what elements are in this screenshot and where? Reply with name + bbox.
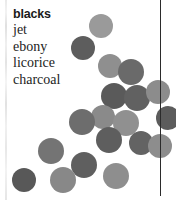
word-list-title: blacks bbox=[13, 6, 103, 22]
scatter-dot bbox=[118, 59, 144, 85]
scatter-dot bbox=[69, 109, 95, 135]
scatter-dot bbox=[50, 167, 76, 193]
word-list-item-ebony: ebony bbox=[13, 39, 103, 56]
scanned-page: blacks jet ebony licorice charcoal bbox=[0, 0, 176, 200]
word-list: blacks jet ebony licorice charcoal bbox=[13, 6, 103, 88]
scatter-dot bbox=[12, 168, 36, 192]
scatter-dot bbox=[156, 106, 176, 130]
word-list-item-charcoal: charcoal bbox=[13, 72, 103, 89]
scatter-dot bbox=[103, 163, 129, 189]
scatter-dot bbox=[146, 80, 170, 104]
vertical-rule-divider bbox=[160, 0, 161, 196]
word-list-item-jet: jet bbox=[13, 22, 103, 39]
scatter-dot bbox=[91, 105, 115, 129]
scatter-dot bbox=[38, 138, 64, 164]
word-list-item-licorice: licorice bbox=[13, 55, 103, 72]
scatter-dot bbox=[96, 127, 122, 153]
